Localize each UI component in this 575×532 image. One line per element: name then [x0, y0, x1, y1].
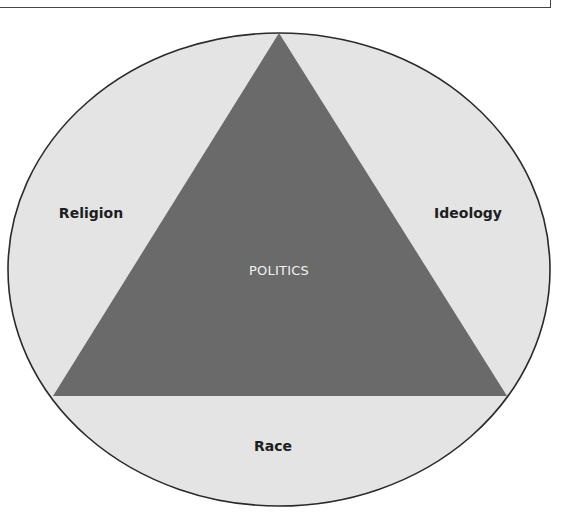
label-religion: Religion: [59, 205, 123, 221]
label-ideology: Ideology: [434, 205, 502, 221]
label-race: Race: [254, 438, 292, 454]
label-politics: POLITICS: [249, 263, 309, 278]
